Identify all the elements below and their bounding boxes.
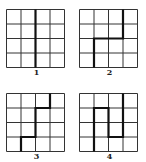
panel-1: 1 [0, 0, 73, 81]
panel-3: 3 [0, 84, 73, 162]
panel-label-4: 4 [73, 151, 146, 161]
panel-2: 2 [73, 0, 146, 81]
panel-label-1: 1 [0, 67, 73, 77]
panel-label-2: 2 [73, 67, 146, 77]
panel-label-3: 3 [0, 151, 73, 161]
panel-4: 4 [73, 84, 146, 162]
